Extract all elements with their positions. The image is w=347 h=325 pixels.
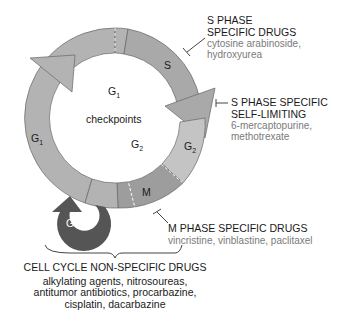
m-phase-drugs: vincristine, vinblastine, paclitaxel — [168, 235, 313, 246]
s-phase-title2: SPECIFIC DRUGS — [207, 27, 301, 39]
g1-text: G — [31, 132, 39, 144]
inner-g1-text: G — [108, 85, 116, 97]
g1-sub: 1 — [39, 139, 43, 146]
non-specific-drugs3: cisplatin, dacarbazine — [0, 299, 230, 311]
inner-g2-label: G2 — [131, 139, 143, 155]
g2-phase-label: G2 — [184, 141, 196, 157]
s-phase-drugs-label: S PHASE SPECIFIC DRUGS cytosine arabinos… — [207, 15, 301, 60]
s-phase-drugs2: hydroxyurea — [207, 49, 301, 60]
s-phase-title1: S PHASE — [207, 15, 301, 27]
g0-phase-label: GO — [66, 218, 80, 231]
m-phase-drugs-label: M PHASE SPECIFIC DRUGS vincristine, vinb… — [168, 223, 313, 246]
non-specific-bracket — [45, 245, 182, 258]
g2-sub: 2 — [192, 147, 196, 154]
g1-phase-label: G1 — [31, 133, 43, 149]
inner-g1-label: G1 — [108, 86, 120, 102]
inner-g1-sub: 1 — [116, 92, 120, 99]
s-self-drugs1: 6-mercaptopurine, — [231, 120, 328, 131]
g0-sub: O — [74, 220, 80, 229]
s-self-limiting-label: S PHASE SPECIFIC SELF-LIMITING 6-mercapt… — [231, 97, 328, 142]
s-self-title2: SELF-LIMITING — [231, 109, 328, 121]
inner-g2-sub: 2 — [139, 145, 143, 152]
non-specific-drugs2: antitumor antibiotics, procarbazine, — [0, 287, 230, 299]
s-self-title1: S PHASE SPECIFIC — [231, 97, 328, 109]
s-phase-label: S — [164, 60, 171, 72]
checkpoints-label: checkpoints — [86, 114, 141, 126]
non-specific-drugs-label: CELL CYCLE NON-SPECIFIC DRUGS alkylating… — [0, 262, 230, 310]
s-phase-drugs1: cytosine arabinoside, — [207, 38, 301, 49]
non-specific-title: CELL CYCLE NON-SPECIFIC DRUGS — [0, 262, 230, 274]
s-segment — [124, 29, 200, 108]
g0-text: G — [66, 217, 74, 229]
s-self-drugs2: methotrexate — [231, 131, 328, 142]
m-phase-title: M PHASE SPECIFIC DRUGS — [168, 223, 313, 235]
m-phase-label: M — [142, 187, 151, 199]
inner-g2-text: G — [131, 138, 139, 150]
g2-text: G — [184, 140, 192, 152]
